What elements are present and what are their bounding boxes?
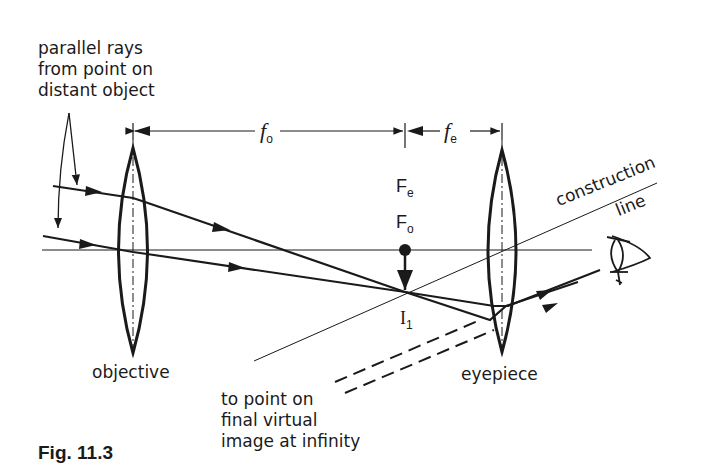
- focal-point-eyepiece-label: Fe: [396, 176, 414, 200]
- intermediate-image-label: I1: [400, 308, 413, 332]
- figure-caption: Fig. 11.3: [38, 442, 113, 464]
- label-pointer-arrows: [58, 113, 77, 228]
- arrowhead-fe-left: [407, 126, 423, 136]
- objective-label: objective: [92, 362, 170, 383]
- virtual-image-label: to point on final virtual image at infin…: [221, 389, 360, 452]
- focal-length-objective-symbol: fo: [260, 118, 273, 146]
- eye-icon: [607, 236, 650, 285]
- objective-lens: [119, 140, 148, 353]
- eyepiece-lens: [488, 140, 516, 352]
- focal-point-objective-label: Fo: [396, 212, 414, 236]
- parallel-rays-label: parallel rays from point on distant obje…: [38, 38, 155, 101]
- dimension-fe: [423, 123, 502, 140]
- focal-length-eyepiece-symbol: fe: [444, 118, 457, 146]
- arrowhead-fo-left: [134, 126, 150, 136]
- eyepiece-label: eyepiece: [461, 364, 538, 385]
